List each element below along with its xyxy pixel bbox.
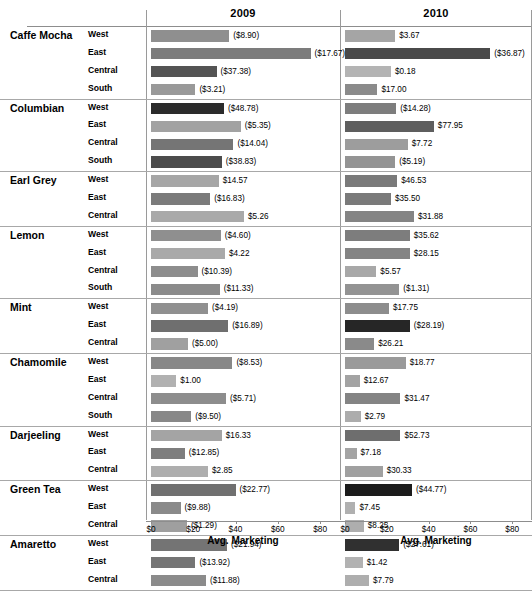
bar[interactable]: [151, 193, 210, 204]
bar[interactable]: [151, 411, 191, 422]
bar[interactable]: [345, 411, 361, 422]
bar-cell-2009: ($11.88): [146, 572, 340, 590]
category-group: Earl GreyWest$14.57$46.53East($16.83)$35…: [0, 172, 532, 227]
table-row[interactable]: East$1.00$12.67: [0, 372, 532, 390]
bar[interactable]: [151, 484, 236, 495]
table-row[interactable]: Central($11.88)$7.79: [0, 572, 532, 590]
bar[interactable]: [345, 139, 408, 150]
bar[interactable]: [151, 156, 222, 167]
bar[interactable]: [151, 575, 206, 586]
bar[interactable]: [345, 430, 400, 441]
bar[interactable]: [151, 84, 195, 95]
bar[interactable]: [151, 375, 176, 386]
table-row[interactable]: Central$5.26$31.88: [0, 208, 532, 226]
bar-cell-2010: $35.62: [340, 227, 532, 245]
bar[interactable]: [345, 357, 406, 368]
bar[interactable]: [151, 66, 217, 77]
table-row[interactable]: South($9.50)$2.79: [0, 408, 532, 426]
table-row[interactable]: South($11.33)($1.31): [0, 280, 532, 298]
bar[interactable]: [151, 430, 222, 441]
bar[interactable]: [345, 230, 410, 241]
bar[interactable]: [345, 393, 400, 404]
bar[interactable]: [345, 303, 389, 314]
bar[interactable]: [151, 320, 228, 331]
bar[interactable]: [345, 375, 360, 386]
region-label: East: [88, 446, 106, 456]
bar[interactable]: [345, 48, 490, 59]
bar[interactable]: [151, 175, 219, 186]
table-row[interactable]: East($5.35)$77.95: [0, 117, 532, 135]
bar-cell-2010: $7.18: [340, 444, 532, 462]
bar[interactable]: [345, 466, 383, 477]
bar[interactable]: [345, 66, 391, 77]
bar[interactable]: [151, 103, 224, 114]
bar[interactable]: [151, 230, 221, 241]
table-row[interactable]: East($17.67)($36.87): [0, 45, 532, 63]
table-row[interactable]: Central($14.04)$7.72: [0, 135, 532, 153]
bar-cell-2010: $35.50: [340, 190, 532, 208]
bar[interactable]: [151, 466, 208, 477]
bar[interactable]: [345, 284, 399, 295]
table-row[interactable]: ColumbianWest($48.78)($14.28): [0, 100, 532, 118]
bar[interactable]: [345, 320, 410, 331]
bar[interactable]: [151, 557, 195, 568]
bar[interactable]: [345, 103, 396, 114]
bar[interactable]: [151, 357, 232, 368]
bar[interactable]: [151, 266, 198, 277]
table-row[interactable]: East($16.89)($28.19): [0, 317, 532, 335]
bar[interactable]: [345, 193, 391, 204]
axis-tick-label: $80: [313, 524, 327, 534]
table-row[interactable]: DarjeelingWest$16.33$52.73: [0, 427, 532, 445]
table-row[interactable]: Central($37.38)$0.18: [0, 63, 532, 81]
category-group: Caffe MochaWest($8.90)$3.67East($17.67)(…: [0, 27, 532, 100]
bar[interactable]: [151, 338, 188, 349]
table-row[interactable]: Central($5.71)$31.47: [0, 390, 532, 408]
axis-tick-label: $0: [146, 524, 155, 534]
bar[interactable]: [345, 121, 434, 132]
table-row[interactable]: East($16.83)$35.50: [0, 190, 532, 208]
table-row[interactable]: Central($5.00)$26.21: [0, 335, 532, 353]
bar[interactable]: [151, 211, 244, 222]
table-row[interactable]: East($12.85)$7.18: [0, 444, 532, 462]
bar[interactable]: [345, 266, 376, 277]
bar[interactable]: [345, 502, 355, 513]
bar[interactable]: [151, 121, 241, 132]
bar[interactable]: [151, 393, 226, 404]
table-row[interactable]: East$4.22$28.15: [0, 245, 532, 263]
bar[interactable]: [345, 175, 397, 186]
bar[interactable]: [151, 48, 311, 59]
table-row[interactable]: South($38.83)($5.19): [0, 153, 532, 171]
bar[interactable]: [345, 484, 412, 495]
bar-cell-2010: ($36.87): [340, 45, 532, 63]
bar[interactable]: [345, 156, 395, 167]
bar-cell-2009: ($22.77): [146, 481, 340, 499]
table-row[interactable]: MintWest($4.19)$17.75: [0, 299, 532, 317]
bar[interactable]: [345, 30, 395, 41]
bar[interactable]: [151, 30, 229, 41]
table-row[interactable]: Central$2.85$30.33: [0, 462, 532, 480]
bar-value-label: ($14.28): [400, 103, 431, 115]
table-row[interactable]: Caffe MochaWest($8.90)$3.67: [0, 27, 532, 45]
bar[interactable]: [151, 303, 208, 314]
bar[interactable]: [345, 338, 374, 349]
bar[interactable]: [151, 502, 181, 513]
table-row[interactable]: Central($10.39)$5.57: [0, 263, 532, 281]
bar[interactable]: [151, 284, 220, 295]
table-row[interactable]: Green TeaWest($22.77)($44.77): [0, 481, 532, 499]
bar[interactable]: [151, 248, 225, 259]
bar[interactable]: [345, 211, 414, 222]
bar[interactable]: [345, 448, 357, 459]
bar[interactable]: [345, 84, 377, 95]
bar[interactable]: [151, 448, 185, 459]
table-row[interactable]: LemonWest($4.60)$35.62: [0, 227, 532, 245]
table-row[interactable]: East($13.92)$1.42: [0, 554, 532, 572]
bar[interactable]: [345, 248, 410, 259]
bar[interactable]: [345, 557, 363, 568]
table-row[interactable]: Earl GreyWest$14.57$46.53: [0, 172, 532, 190]
bar-cell-2010: $46.53: [340, 172, 532, 190]
bar[interactable]: [345, 575, 369, 586]
bar[interactable]: [151, 139, 233, 150]
table-row[interactable]: South($3.21)$17.00: [0, 81, 532, 99]
table-row[interactable]: ChamomileWest($8.53)$18.77: [0, 354, 532, 372]
table-row[interactable]: East($9.88)$7.45: [0, 499, 532, 517]
